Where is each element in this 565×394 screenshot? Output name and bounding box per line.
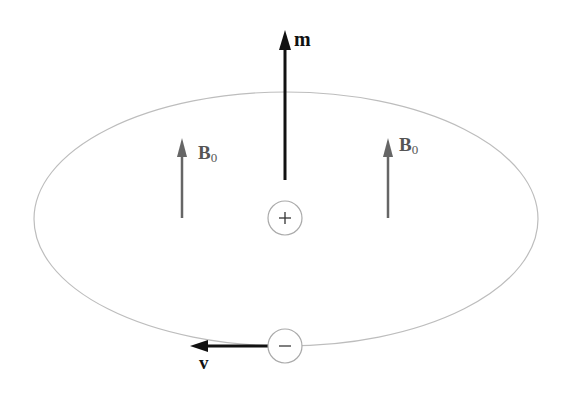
field-label-left: B0	[198, 142, 217, 166]
field-arrow-right	[383, 138, 393, 218]
field-symbol: B	[198, 142, 211, 163]
orbit-diagram	[0, 0, 565, 394]
field-subscript: 0	[211, 150, 218, 165]
magnetic-moment-arrow	[279, 30, 291, 180]
field-label-right: B0	[399, 134, 418, 158]
magnetic-moment-label: m	[294, 28, 311, 51]
velocity-label: v	[199, 352, 209, 374]
field-subscript: 0	[412, 142, 419, 157]
positive-charge	[268, 201, 302, 235]
field-arrow-left	[177, 138, 187, 218]
velocity-arrow	[190, 340, 268, 352]
negative-charge	[268, 329, 302, 363]
field-symbol: B	[399, 134, 412, 155]
